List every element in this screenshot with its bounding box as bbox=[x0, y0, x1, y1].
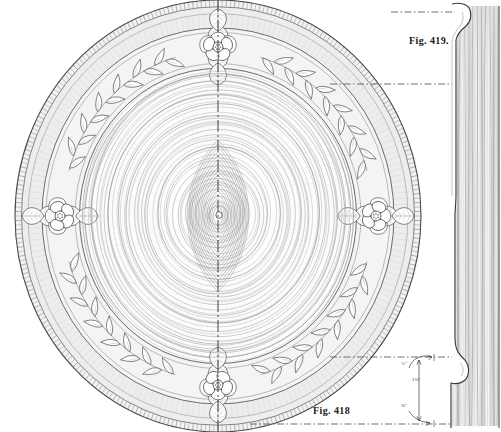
dimension-annotations bbox=[0, 0, 501, 432]
engraving-plate-figure: Fig. 419. Fig. 418 ¾″ 1⅛″ ⅜″ bbox=[0, 0, 501, 432]
dim-a-leader bbox=[409, 356, 432, 368]
figure-label-419: Fig. 419. bbox=[409, 35, 449, 46]
dim-c-leader bbox=[409, 411, 430, 423]
projection-lines bbox=[250, 12, 455, 424]
dimension-label-foot-height: ⅜″ bbox=[401, 403, 407, 408]
dimension-label-rim-width: ¾″ bbox=[401, 361, 407, 366]
dimension-leaders bbox=[409, 354, 434, 427]
figure-label-418: Fig. 418 bbox=[313, 405, 350, 416]
dimension-label-overall-thickness: 1⅛″ bbox=[412, 377, 420, 382]
